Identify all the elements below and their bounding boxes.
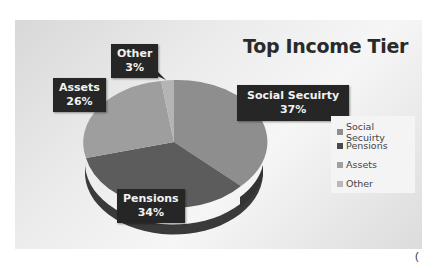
legend-item-other: Other <box>337 178 373 189</box>
legend-swatch <box>337 162 343 168</box>
legend: Social Secuirty Pensions Assets Other <box>331 116 415 193</box>
label-pensions: Pensions 34% <box>117 189 185 223</box>
legend-label: Pensions <box>346 140 388 151</box>
label-assets: Assets 26% <box>53 78 106 112</box>
edge-mark: ( <box>415 250 419 262</box>
legend-label: Assets <box>346 159 377 170</box>
legend-item-pensions: Pensions <box>337 140 388 151</box>
legend-item-assets: Assets <box>337 159 377 170</box>
label-pensions-pct: 34% <box>123 206 179 220</box>
label-assets-name: Assets <box>59 81 100 95</box>
label-other-pct: 3% <box>117 61 152 75</box>
legend-label: Other <box>346 178 373 189</box>
legend-swatch <box>337 143 343 149</box>
label-social-security-pct: 37% <box>247 103 339 117</box>
label-pensions-name: Pensions <box>123 192 179 206</box>
label-assets-pct: 26% <box>59 95 100 109</box>
label-other-name: Other <box>117 47 152 61</box>
label-other: Other 3% <box>111 44 158 78</box>
legend-swatch <box>337 181 343 187</box>
legend-swatch <box>337 129 343 135</box>
label-social-security-name: Social Secuirty <box>247 89 339 103</box>
